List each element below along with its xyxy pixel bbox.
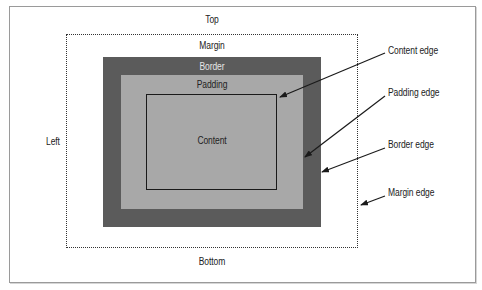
label-padding-edge: Padding edge xyxy=(388,87,439,98)
label-bottom: Bottom xyxy=(199,256,225,267)
label-top: Top xyxy=(205,14,218,25)
label-content-edge: Content edge xyxy=(388,45,438,56)
label-border: Border xyxy=(199,61,224,72)
label-left: Left xyxy=(46,136,60,147)
label-content: Content xyxy=(197,135,226,146)
label-border-edge: Border edge xyxy=(388,139,434,150)
label-padding: Padding xyxy=(197,79,228,90)
label-margin-edge: Margin edge xyxy=(388,187,434,198)
label-margin: Margin xyxy=(199,40,224,51)
